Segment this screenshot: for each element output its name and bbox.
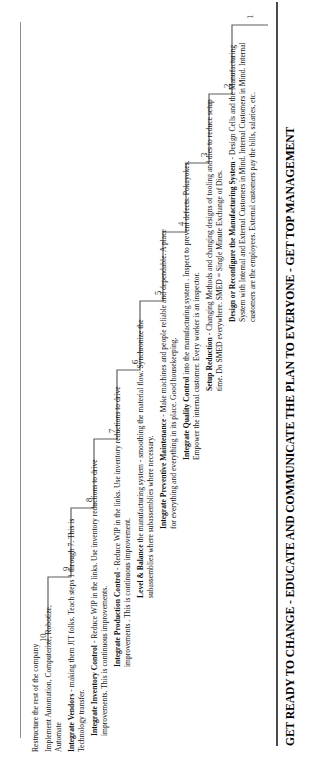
- step-text-5: Level & Balance the manufacturing system…: [136, 298, 156, 598]
- step-text-9: Implement Automation, Computerize, Robot…: [44, 574, 64, 752]
- step-text-1: Design or Reconfigure the Manufacturing …: [228, 22, 258, 322]
- step-text-6: Integrate Production Control - Reduce WI…: [113, 367, 133, 667]
- top-hairline-rule: [20, 22, 21, 738]
- step-text-7: Integrate Inventory Control - Reduce WIP…: [90, 436, 110, 736]
- rotated-page-canvas: 1 2 3 4 5 6 7 8 9 10 Design or Reconfigu…: [0, 0, 322, 760]
- footer-divider-rule: [276, 2, 278, 746]
- footer-banner-text: GET READY TO CHANGE - EDUCATE AND COMMUN…: [284, 2, 297, 746]
- step-lead-4: Integrate Preventive Maintenance: [159, 419, 168, 529]
- step-lead-2: Setup Reduction: [205, 337, 214, 391]
- step-text-8: Integrate Vendors - making them JIT folk…: [67, 505, 87, 752]
- step-number-1: 1: [246, 15, 255, 19]
- step-lead-7: Integrate Inventory Control: [90, 645, 99, 736]
- step-lead-3: Integrate Quality Control: [182, 377, 191, 460]
- step-text-2: Setup Reduction - Changing Methods and c…: [205, 91, 225, 391]
- step-text-3: Integrate Quality Control into the manuf…: [182, 160, 202, 460]
- step-body-10: Restructure the rest of the company: [31, 644, 40, 752]
- step-text-4: Integrate Preventive Maintenance - Make …: [159, 229, 179, 529]
- step-body-9: Implement Automation, Computerize, Robot…: [44, 605, 63, 752]
- step-lead-5: Level & Balance: [136, 544, 145, 598]
- step-lead-6: Integrate Production Control: [113, 572, 122, 667]
- step-lead-1: Design or Reconfigure the Manufacturing …: [228, 161, 237, 322]
- step-lead-8: Integrate Vendors: [67, 694, 76, 752]
- document-sheet: 1 2 3 4 5 6 7 8 9 10 Design or Reconfigu…: [0, 0, 322, 760]
- step-text-10: Restructure the rest of the company: [31, 625, 41, 752]
